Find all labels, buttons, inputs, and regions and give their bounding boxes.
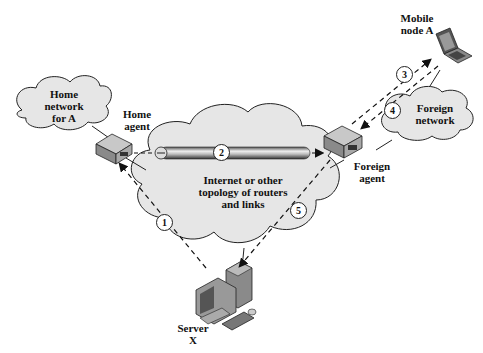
home-agent-label: Home agent: [112, 108, 162, 132]
step-marker-4: 4: [384, 102, 401, 119]
step-marker-2: 2: [213, 144, 230, 161]
mobile-node-label: Mobile node A: [392, 12, 442, 36]
internet-label: Internet or other topology of routers an…: [178, 174, 308, 210]
step-marker-3: 3: [396, 66, 413, 83]
home-agent-router-icon: [96, 134, 132, 164]
server-label: Server X: [168, 322, 218, 346]
step-marker-1: 1: [156, 214, 173, 231]
foreign-agent-label: Foreign agent: [346, 160, 398, 184]
home-network-label: Home network for A: [34, 88, 94, 124]
mobile-ip-diagram: Home network for A Home agent Internet o…: [0, 0, 483, 353]
step-marker-5: 5: [290, 202, 307, 219]
server-computer-icon: [196, 262, 256, 330]
foreign-network-label: Foreign network: [404, 102, 466, 126]
